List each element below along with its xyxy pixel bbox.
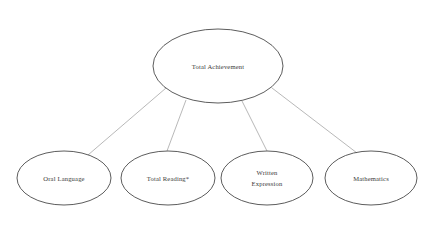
link-total-achievement-written-expression (242, 101, 267, 151)
node-written-expression-label-line1: Written (257, 169, 278, 176)
node-written-expression[interactable]: Written Expression (221, 151, 313, 205)
node-total-achievement-label: Total Achievement (192, 63, 244, 70)
diagram-canvas-svg: Total Achievement Oral Language Total Re… (0, 0, 430, 225)
connector-group (88, 88, 357, 155)
node-written-expression-label-line2: Expression (252, 180, 283, 187)
node-total-achievement[interactable]: Total Achievement (153, 29, 283, 103)
link-total-achievement-oral-language (88, 88, 166, 155)
node-oral-language[interactable]: Oral Language (17, 151, 111, 205)
node-oral-language-label: Oral Language (43, 175, 84, 182)
link-total-achievement-total-reading (167, 100, 186, 151)
achievement-hierarchy-diagram: Total Achievement Oral Language Total Re… (0, 0, 430, 225)
node-total-reading[interactable]: Total Reading* (121, 151, 215, 205)
link-total-achievement-mathematics (272, 88, 357, 153)
node-mathematics-label: Mathematics (353, 175, 389, 182)
node-total-reading-label: Total Reading* (147, 175, 189, 182)
node-written-expression-shape (221, 151, 313, 205)
node-mathematics[interactable]: Mathematics (325, 151, 417, 205)
